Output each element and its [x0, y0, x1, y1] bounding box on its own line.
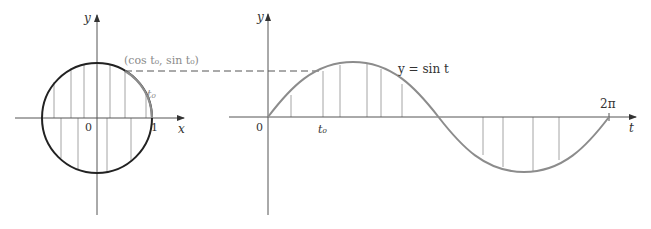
arc-label: t₀	[147, 88, 156, 101]
sine-graph-panel: y t 0 t₀ 2π y = sin t	[229, 10, 636, 215]
point-label: (cos t₀, sin t₀)	[124, 54, 199, 67]
left-y-label: y	[83, 11, 91, 25]
unit-circle-panel: y x 0 1 (cos t₀, sin t₀) t₀	[15, 11, 199, 215]
right-origin-label: 0	[256, 121, 263, 134]
right-y-label: y	[256, 10, 264, 24]
left-one-label: 1	[151, 121, 158, 134]
left-x-label: x	[178, 122, 185, 136]
left-origin-label: 0	[85, 121, 92, 134]
two-pi-label: 2π	[600, 97, 616, 111]
right-t-label: t	[629, 121, 634, 135]
curve-label: y = sin t	[397, 62, 449, 76]
t0-label: t₀	[318, 123, 327, 136]
sine-from-circle-diagram: y x 0 1 (cos t₀, sin t₀) t₀ y t	[0, 0, 651, 229]
